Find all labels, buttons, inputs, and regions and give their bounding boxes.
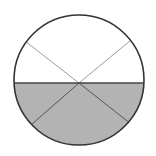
fraction-circle-diagram — [0, 0, 156, 156]
